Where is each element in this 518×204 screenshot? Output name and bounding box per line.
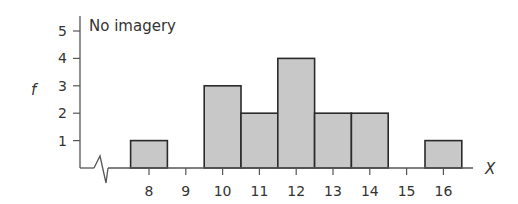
y-axis-label: f — [31, 81, 39, 99]
histogram-chart: 12345 8910111213141516 No imagery f X — [0, 0, 518, 204]
histogram-bars — [131, 58, 462, 168]
x-tick-label: 8 — [145, 183, 154, 199]
y-tick-label: 1 — [58, 133, 67, 149]
x-axis-label: X — [484, 160, 496, 178]
y-tick-label: 4 — [58, 50, 67, 66]
histogram-bar — [315, 113, 352, 168]
histogram-bar — [425, 141, 462, 168]
histogram-bar — [278, 58, 315, 168]
y-tick-label: 2 — [58, 105, 67, 121]
x-tick-label: 9 — [181, 183, 190, 199]
histogram-bar — [351, 113, 388, 168]
axis-break-icon — [94, 156, 108, 183]
y-tick-label: 5 — [58, 23, 67, 39]
x-ticks: 8910111213141516 — [145, 168, 453, 199]
x-tick-label: 14 — [361, 183, 379, 199]
x-tick-label: 13 — [324, 183, 342, 199]
histogram-bar — [241, 113, 278, 168]
x-tick-label: 11 — [250, 183, 268, 199]
x-tick-label: 15 — [398, 183, 416, 199]
x-tick-label: 16 — [434, 183, 452, 199]
histogram-bar — [204, 86, 241, 168]
y-ticks: 12345 — [58, 23, 80, 149]
x-tick-label: 10 — [214, 183, 232, 199]
chart-title: No imagery — [89, 17, 176, 35]
y-tick-label: 3 — [58, 78, 67, 94]
histogram-bar — [131, 141, 168, 168]
x-tick-label: 12 — [287, 183, 305, 199]
